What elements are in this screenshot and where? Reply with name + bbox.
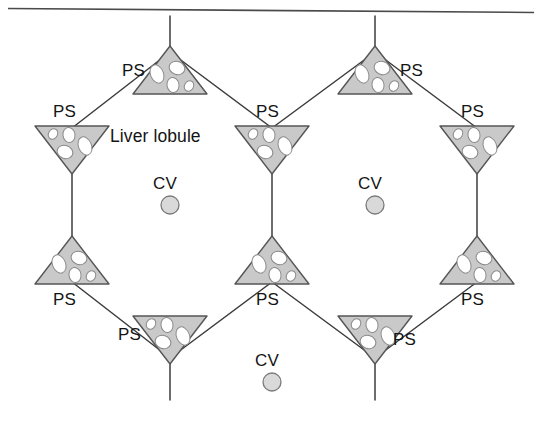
label-ps-bottom-right: PS (393, 331, 416, 348)
central-vein-left[interactable] (161, 196, 179, 214)
top-divider-rule (8, 9, 534, 13)
label-ps-upper-middle: PS (256, 103, 279, 120)
central-vein-right[interactable] (366, 196, 384, 214)
label-ps-lower-middle: PS (256, 291, 279, 308)
label-central-vein-bottom: CV (255, 352, 279, 369)
central-vein-bottom[interactable] (263, 373, 281, 391)
label-liver-lobule: Liver lobule (110, 128, 201, 145)
portal-space-upper-middle[interactable] (235, 126, 309, 174)
label-ps-lower-right: PS (461, 291, 484, 308)
label-ps-lower-left: PS (53, 291, 76, 308)
label-central-vein-left: CV (153, 175, 177, 192)
label-ps-top-left: PS (122, 62, 145, 79)
portal-space-bottom-left[interactable] (133, 316, 207, 364)
portal-space-upper-left[interactable] (35, 126, 109, 174)
label-ps-top-right: PS (400, 62, 423, 79)
figure-canvas: Liver lobule CV CV CV PS PS PS PS PS PS … (0, 0, 540, 429)
lobule-boundaries (72, 52, 477, 358)
portal-space-lower-right[interactable] (440, 236, 514, 284)
label-ps-upper-left: PS (53, 103, 76, 120)
portal-space-lower-middle[interactable] (235, 236, 309, 284)
label-ps-upper-right: PS (461, 103, 484, 120)
label-central-vein-right: CV (358, 175, 382, 192)
portal-space-upper-right[interactable] (440, 126, 514, 174)
label-ps-bottom-left: PS (118, 326, 141, 343)
portal-space-lower-left[interactable] (35, 236, 109, 284)
